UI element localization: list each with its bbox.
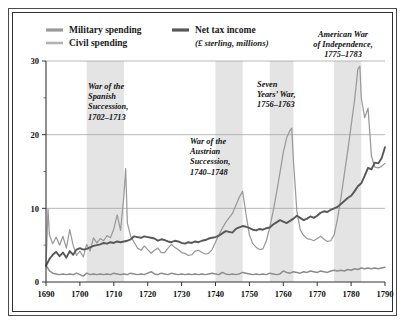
annotation-line: 1702–1713: [88, 113, 126, 122]
legend-civil-label: Civil spending: [69, 38, 128, 48]
annotation-line: American War: [317, 30, 369, 39]
annotation-line: of Independence,: [313, 40, 373, 49]
x-tick-label: 1790: [376, 289, 393, 299]
x-tick-label: 1720: [139, 289, 156, 299]
chart-stage: 0102030169017001710172017301740175017601…: [0, 0, 405, 324]
annotation-line: 1756–1763: [257, 100, 295, 109]
annotation-line: Spanish: [88, 92, 116, 101]
annotation-line: Years’ War,: [257, 90, 296, 99]
annotation-line: War of the: [190, 137, 226, 146]
annotation-line: Succession,: [190, 157, 230, 166]
annotation-line: 1740–1748: [190, 168, 229, 177]
x-tick-label: 1760: [275, 289, 292, 299]
x-tick-label: 1750: [241, 289, 258, 299]
y-tick-label: 0: [35, 277, 39, 287]
annotation-line: Austrian: [189, 147, 221, 156]
x-tick-label: 1700: [71, 289, 88, 299]
chart-svg: 0102030169017001710172017301740175017601…: [0, 0, 405, 324]
y-tick-label: 20: [30, 130, 39, 140]
y-tick-label: 10: [30, 204, 39, 214]
y-tick-label: 30: [30, 56, 39, 66]
legend-nettax-label: Net tax income: [195, 25, 256, 35]
annotation-line: Succession,: [88, 102, 128, 111]
legend-unit-note: (£ sterling, millions): [195, 38, 269, 48]
x-tick-label: 1740: [207, 289, 224, 299]
war-band: [334, 61, 361, 282]
x-tick-label: 1770: [309, 289, 326, 299]
x-tick-label: 1690: [37, 289, 54, 299]
annotation-austrian-succession: War of theAustrianSuccession,1740–1748: [189, 137, 230, 177]
legend-group: Military spendingCivil spendingNet tax i…: [46, 25, 269, 48]
annotation-american-war: American Warof Independence,1775–1783: [313, 30, 373, 59]
annotation-line: 1775–1783: [324, 50, 362, 59]
annotation-line: War of the: [88, 82, 124, 91]
annotation-line: Seven: [257, 80, 278, 89]
annotation-spanish-succession: War of theSpanishSuccession,1702–1713: [88, 82, 128, 122]
x-tick-label: 1780: [343, 289, 360, 299]
x-tick-label: 1710: [105, 289, 122, 299]
x-tick-label: 1730: [173, 289, 190, 299]
legend-military-label: Military spending: [69, 25, 142, 35]
